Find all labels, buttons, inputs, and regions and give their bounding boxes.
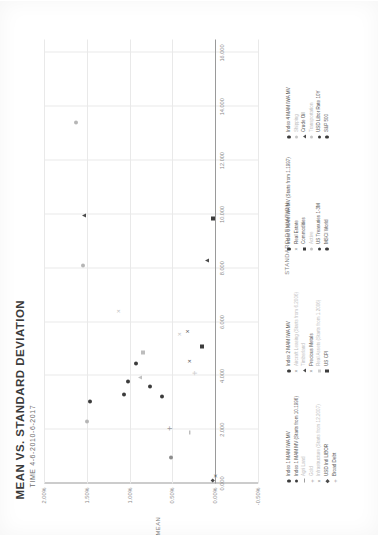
legend-item[interactable]: Transportation (309, 87, 315, 139)
data-point (200, 344, 204, 348)
legend-item-label: US Treasuries 1-3M (316, 203, 322, 244)
x-axis-tick-label: 14.000 (219, 98, 225, 115)
x-axis-tick-label: 10.000 (219, 205, 225, 222)
data-point (141, 351, 145, 355)
data-point: + (190, 370, 199, 375)
legend-item[interactable]: ×Real Estate (294, 157, 300, 251)
data-point: × (114, 309, 121, 313)
legend-item[interactable]: Agri Land (301, 396, 307, 483)
legend-item-label: Agri Land (301, 456, 307, 476)
legend-item-label: Active (309, 231, 315, 244)
legend-item[interactable]: Index 4 MAM IWA MV (286, 87, 292, 139)
legend-marker-icon (287, 368, 292, 373)
legend-item[interactable]: ×Infrastructure (Starts from 12.2007) (316, 396, 322, 483)
chart-title: MEAN VS. STANDARD DEVIATION (14, 299, 26, 499)
gridline-horizontal (258, 39, 259, 483)
legend-item-label: MSCI World (324, 219, 330, 244)
legend-marker-icon: × (294, 368, 299, 373)
legend-marker-icon (324, 478, 329, 483)
chart-sheet: MEAN VS. STANDARD DEVIATION TIME 4-6-201… (0, 0, 378, 535)
data-point (138, 375, 142, 379)
data-point (212, 478, 215, 481)
legend-item[interactable]: Index 2 MAM IWA MV (286, 291, 292, 373)
x-axis-tick-label: 6.000 (219, 315, 225, 329)
data-point (134, 361, 138, 365)
gridline-vertical (44, 482, 258, 483)
legend-item-label: Index 3 MAM IWA MV (Starts from 1.1997) (286, 157, 292, 244)
gridline-horizontal (172, 39, 173, 483)
legend-item[interactable]: Index 3 MAM IWA MV (Starts from 1.1997) (286, 157, 292, 251)
legend-item-label: USD Libor Rate 10Y (316, 90, 322, 132)
legend-column: Index 3 MAM IWA MV (Starts from 1.1997)×… (286, 157, 330, 251)
legend-item-label: Timberland (301, 343, 307, 366)
legend-item[interactable]: S&P 500 (324, 87, 330, 139)
legend-marker-icon (294, 134, 299, 139)
legend-marker-icon (294, 478, 299, 483)
legend-marker-icon: + (332, 478, 337, 483)
gridline-vertical (44, 51, 258, 52)
legend-item-label: Precious Metals (309, 333, 315, 366)
gridline-vertical (44, 321, 258, 322)
legend-item-label: Aircraft Leasing (Starts from 6.2006) (294, 291, 300, 365)
legend-item-label: Real Assets (Starts from 1.2006) (316, 299, 322, 365)
gridline-vertical (44, 428, 258, 429)
legend-column: Index 1 MAM IWA MVIndex 1 MAM MV (Starts… (286, 396, 338, 483)
y-axis-tick-label: 2.00% (41, 487, 47, 513)
legend-item-label: Index 4 MAM IWA MV (286, 87, 292, 132)
legend-marker-icon (317, 246, 322, 251)
legend-marker-icon (287, 134, 292, 139)
legend-item[interactable]: Crude Oil (301, 87, 307, 139)
legend-item[interactable]: Index 1 MAM IWA MV (286, 396, 292, 483)
legend-item[interactable]: +Broad Debt (332, 396, 338, 483)
legend-item[interactable]: ×Aircraft Leasing (Starts from 6.2006) (294, 291, 300, 373)
y-axis-tick-label: 0.00% (212, 487, 218, 513)
data-point (85, 419, 89, 423)
legend-item[interactable]: ×Precious Metals (309, 291, 315, 373)
chart-legend: Index 1 MAM IWA MVIndex 1 MAM MV (Starts… (286, 31, 360, 483)
x-axis-tick-label: 4.000 (219, 368, 225, 382)
data-point (81, 263, 85, 267)
legend-item-label: Index 1 MAM MV (Starts from 10.1996) (294, 396, 300, 476)
gridline-horizontal (215, 39, 216, 483)
legend-item[interactable]: Real Assets (Starts from 1.2006) (316, 291, 322, 373)
legend-marker-icon (317, 134, 322, 139)
legend-marker-icon (302, 134, 307, 139)
gridline-vertical (44, 159, 258, 160)
legend-item-label: Shipping (294, 114, 300, 132)
legend-item[interactable]: Active (309, 157, 315, 251)
x-axis-tick-label: 12.000 (219, 152, 225, 169)
legend-item-label: USD Intl LIBOR (324, 443, 330, 475)
legend-item[interactable]: Timberland (301, 291, 307, 373)
plot-area: 0.0002.0004.0006.0008.00010.00012.00014.… (44, 39, 258, 483)
legend-marker-icon (302, 478, 307, 483)
data-point: × (185, 359, 192, 363)
legend-item[interactable]: US CPI (324, 291, 330, 373)
data-point (169, 455, 173, 459)
legend-item[interactable]: MSCI World (324, 157, 330, 251)
legend-marker-icon (302, 368, 307, 373)
y-axis-tick-label: 1.50% (84, 487, 90, 513)
data-point: × (183, 329, 190, 333)
legend-marker-icon (287, 478, 292, 483)
legend-item-label: Infrastructure (Starts from 12.2007) (316, 404, 322, 476)
legend-item-label: S&P 500 (324, 113, 330, 131)
gridline-horizontal (130, 39, 131, 483)
legend-item[interactable]: Index 1 MAM MV (Starts from 10.1996) (294, 396, 300, 483)
legend-marker-icon (317, 368, 322, 373)
legend-item-label: Broad Debt (332, 452, 338, 475)
legend-item-label: Gold (309, 466, 315, 476)
data-point (122, 392, 126, 396)
legend-item[interactable]: Shipping (294, 87, 300, 139)
legend-item-label: Index 2 MAM IWA MV (286, 321, 292, 366)
gridline-vertical (44, 267, 258, 268)
legend-item[interactable]: +Gold (309, 396, 315, 483)
legend-column: Index 4 MAM IWA MVShippingCrude OilTrans… (286, 87, 330, 139)
data-point (211, 216, 215, 220)
legend-item[interactable]: Commodities (301, 157, 307, 251)
legend-item[interactable]: US Treasuries 1-3M (316, 157, 322, 251)
legend-item-label: Real Estate (294, 220, 300, 244)
data-point: × (176, 332, 183, 336)
legend-marker-icon (287, 246, 292, 251)
legend-item[interactable]: USD Intl LIBOR (324, 396, 330, 483)
legend-item[interactable]: USD Libor Rate 10Y (316, 87, 322, 139)
